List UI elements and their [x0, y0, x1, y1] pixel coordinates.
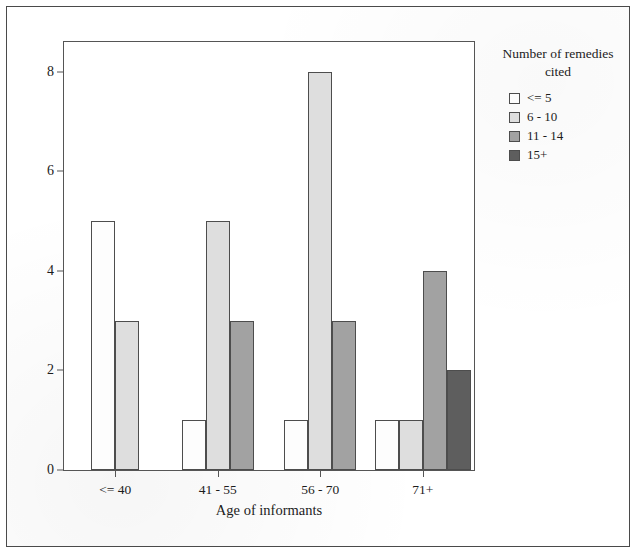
legend-item-label: 11 - 14 — [527, 128, 563, 144]
bar-41-55-<=5 — [182, 420, 206, 470]
legend-swatch-icon — [509, 150, 520, 161]
legend-item-list: <= 56 - 1011 - 1415+ — [483, 89, 633, 165]
legend-item-label: 15+ — [527, 147, 547, 163]
bar-71+-<=5 — [375, 420, 399, 470]
x-axis-tick-label: 56 - 70 — [301, 482, 339, 498]
legend-swatch-icon — [509, 93, 520, 104]
bar-71+-15+ — [447, 370, 471, 470]
y-axis-tick-label: 6 — [47, 163, 54, 179]
y-axis-tick-label: 0 — [47, 462, 54, 478]
y-axis-tick-label: 8 — [47, 64, 54, 80]
legend-item: 15+ — [509, 146, 633, 165]
x-axis-tick-label: 71+ — [412, 482, 433, 498]
figure-frame: 02468<= 4041 - 5556 - 7071+ Age of infor… — [6, 6, 630, 547]
x-axis-tick-mark — [423, 470, 424, 477]
x-axis-title: Age of informants — [63, 502, 475, 519]
chart-legend: Number of remedies cited <= 56 - 1011 - … — [483, 45, 633, 165]
legend-item: 6 - 10 — [509, 108, 633, 127]
y-axis-tick-mark — [57, 171, 64, 172]
y-axis-tick-mark — [57, 470, 64, 471]
legend-item-label: 6 - 10 — [527, 109, 557, 125]
bar-41-55-11-14 — [230, 321, 254, 470]
legend-title: Number of remedies cited — [483, 45, 633, 81]
y-axis-tick-mark — [57, 71, 64, 72]
y-axis-tick-mark — [57, 270, 64, 271]
bar-41-55-6-10 — [206, 221, 230, 470]
y-axis-tick-label: 4 — [47, 263, 54, 279]
bar-71+-6-10 — [399, 420, 423, 470]
legend-swatch-icon — [509, 131, 520, 142]
legend-item: 11 - 14 — [509, 127, 633, 146]
bar-56-70-11-14 — [332, 321, 356, 470]
x-axis-tick-mark — [218, 470, 219, 477]
bar-56-70-6-10 — [308, 72, 332, 470]
plot-inner: 02468<= 4041 - 5556 - 7071+ — [64, 42, 474, 470]
legend-item: <= 5 — [509, 89, 633, 108]
bar-<=40-<=5 — [91, 221, 115, 470]
legend-swatch-icon — [509, 112, 520, 123]
x-axis-tick-label: 41 - 55 — [199, 482, 237, 498]
legend-item-label: <= 5 — [527, 90, 551, 106]
bar-56-70-<=5 — [284, 420, 308, 470]
y-axis-tick-label: 2 — [47, 362, 54, 378]
x-axis-tick-mark — [115, 470, 116, 477]
bar-71+-11-14 — [423, 271, 447, 470]
y-axis-tick-mark — [57, 370, 64, 371]
plot-area: 02468<= 4041 - 5556 - 7071+ — [63, 41, 475, 471]
bar-<=40-6-10 — [115, 321, 139, 470]
x-axis-tick-label: <= 40 — [99, 482, 131, 498]
x-axis-tick-mark — [320, 470, 321, 477]
